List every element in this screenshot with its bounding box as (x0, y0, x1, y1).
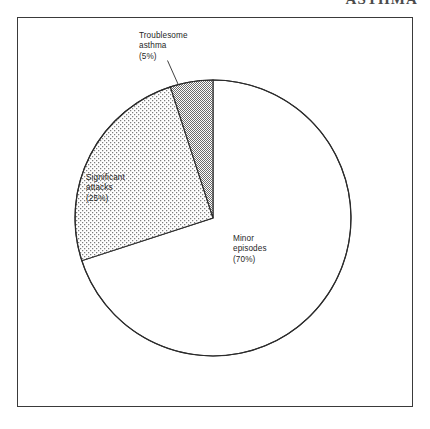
pie-label-percent: (5%) (139, 52, 188, 62)
pie-chart (0, 0, 430, 429)
pie-label-line-2: asthma (139, 41, 188, 51)
pie-label-line-1: Minor (233, 234, 267, 244)
pie-label-percent: (70%) (233, 255, 267, 265)
pie-label-line-1: Troublesome (139, 31, 188, 41)
pie-label-percent: (25%) (86, 194, 125, 204)
pie-label-minor-episodes: Minor episodes (70%) (233, 234, 267, 265)
callout-leader-line-troublesome-asthma (168, 61, 179, 85)
pie-label-line-2: episodes (233, 244, 267, 254)
pie-label-line-1: Significant (86, 173, 125, 183)
pie-label-troublesome-asthma: Troublesome asthma (5%) (139, 31, 188, 62)
pie-label-line-2: attacks (86, 183, 125, 193)
pie-label-significant-attacks: Significant attacks (25%) (86, 173, 125, 204)
